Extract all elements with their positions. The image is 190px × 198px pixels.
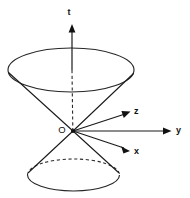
t-axis-label: t <box>68 7 71 17</box>
z-axis-label: z <box>134 106 139 116</box>
x-axis-label: x <box>134 146 139 156</box>
x-axis-line <box>73 131 124 148</box>
lower-cone-right-generator <box>73 131 119 173</box>
upper-cone-rim-ellipse <box>8 48 134 92</box>
z-axis-group: z <box>73 106 139 131</box>
origin-label: O <box>58 124 65 135</box>
origin-point-marker <box>71 129 75 133</box>
t-axis-group: t <box>68 7 76 129</box>
z-axis-arrowhead <box>121 111 130 118</box>
lower-cone-left-generator <box>29 131 74 173</box>
y-axis-group: y <box>73 125 181 135</box>
t-axis-arrowhead <box>69 24 76 33</box>
x-axis-arrowhead <box>121 147 130 154</box>
upper-cone-left-generator <box>9 73 74 132</box>
upper-cone-group <box>8 48 134 131</box>
y-axis-label: y <box>176 125 181 135</box>
lower-cone-group <box>28 131 120 191</box>
y-axis-arrowhead <box>163 128 172 135</box>
light-cone-diagram: t z y x O <box>0 0 190 198</box>
lower-cone-rim-front-arc <box>28 175 120 191</box>
z-axis-line <box>73 114 125 131</box>
t-axis-dashed-segment-hidden <box>72 70 73 129</box>
x-axis-group: x <box>73 131 139 156</box>
light-cone-figure: t z y x O <box>0 0 190 198</box>
upper-cone-right-generator <box>73 74 134 132</box>
